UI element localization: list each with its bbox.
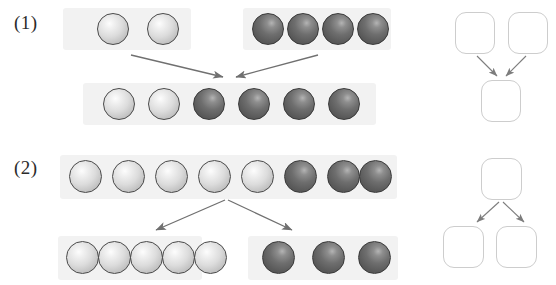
panel-label-2: (2) xyxy=(14,157,38,179)
sphere-dark xyxy=(322,13,354,45)
schematic-arrow-split-right xyxy=(503,202,524,222)
sphere-light xyxy=(66,241,99,274)
arrow-merge-left xyxy=(131,55,223,77)
sphere-light xyxy=(198,160,231,193)
schematic-node-input-a xyxy=(455,12,495,54)
sphere-dark xyxy=(357,13,389,45)
sphere-dark xyxy=(358,241,391,274)
sphere-light xyxy=(194,241,227,274)
schematic-arrow-merge-right xyxy=(506,56,526,76)
sphere-light xyxy=(162,241,195,274)
sphere-light xyxy=(241,160,274,193)
sphere-dark xyxy=(328,88,360,120)
sphere-light xyxy=(130,241,163,274)
panel-label-1: (1) xyxy=(14,12,38,34)
schematic-arrow-merge-left xyxy=(477,56,497,76)
sphere-light xyxy=(97,13,129,45)
sphere-dark xyxy=(284,160,317,193)
arrow-merge-right xyxy=(236,55,318,77)
schematic-node-output xyxy=(481,80,521,122)
figure-canvas: (1) (2) xyxy=(0,0,556,285)
sphere-light xyxy=(155,160,188,193)
sphere-dark xyxy=(359,160,392,193)
arrow-split-right xyxy=(228,200,292,230)
sphere-light xyxy=(148,88,180,120)
sphere-dark xyxy=(252,13,284,45)
schematic-node-target-a xyxy=(443,226,484,268)
arrow-split-left xyxy=(156,200,225,230)
schematic-node-target-b xyxy=(496,226,537,268)
schematic-node-input-b xyxy=(508,12,548,54)
sphere-dark xyxy=(262,241,295,274)
schematic-arrow-split-left xyxy=(477,202,499,222)
sphere-light xyxy=(147,13,179,45)
sphere-light xyxy=(112,160,145,193)
sphere-light xyxy=(98,241,131,274)
sphere-dark xyxy=(312,241,345,274)
sphere-dark xyxy=(193,88,225,120)
sphere-dark xyxy=(287,13,319,45)
sphere-dark xyxy=(238,88,270,120)
sphere-dark xyxy=(283,88,315,120)
sphere-dark xyxy=(327,160,360,193)
sphere-light xyxy=(69,160,102,193)
schematic-node-source xyxy=(481,158,522,200)
sphere-light xyxy=(103,88,135,120)
